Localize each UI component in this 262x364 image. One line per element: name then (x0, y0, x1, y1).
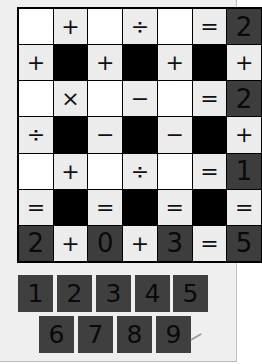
empty-cell[interactable] (88, 154, 122, 189)
operator-cell: = (193, 9, 227, 44)
operator-cell: + (54, 154, 88, 189)
blocked-cell (54, 190, 88, 225)
operator-cell: − (123, 81, 157, 116)
operator-cell: − (88, 117, 122, 152)
operator-cell: = (19, 190, 53, 225)
operator-cell: = (193, 226, 227, 261)
clue-number-cell: 2 (227, 81, 261, 116)
number-tile[interactable]: 2 (57, 275, 92, 312)
empty-cell[interactable] (158, 154, 192, 189)
operator-cell: = (227, 190, 261, 225)
number-tile[interactable]: 4 (135, 275, 170, 312)
operator-cell: = (193, 154, 227, 189)
operator-cell: = (193, 81, 227, 116)
operator-cell: ÷ (19, 117, 53, 152)
number-tile[interactable]: 8 (117, 316, 152, 353)
operator-cell: + (54, 9, 88, 44)
number-tile[interactable]: 1 (18, 275, 53, 312)
empty-cell[interactable] (158, 81, 192, 116)
operator-cell: × (54, 81, 88, 116)
empty-cell[interactable] (158, 9, 192, 44)
clue-number-cell: 2 (19, 226, 53, 261)
operator-cell: + (227, 117, 261, 152)
operator-cell: + (158, 45, 192, 80)
blocked-cell (123, 45, 157, 80)
operator-cell: + (88, 45, 122, 80)
number-tile[interactable]: 5 (173, 275, 208, 312)
operator-cell: ÷ (123, 154, 157, 189)
puzzle-grid: +÷=2++++×−=2÷−−++÷=1====2+0+3=5 (17, 7, 262, 263)
number-tile[interactable]: 7 (78, 316, 113, 353)
operator-cell: − (158, 117, 192, 152)
blocked-cell (54, 117, 88, 152)
empty-cell[interactable] (19, 154, 53, 189)
operator-cell: = (158, 190, 192, 225)
operator-cell: = (88, 190, 122, 225)
number-tile[interactable]: 3 (96, 275, 131, 312)
clue-number-cell: 5 (227, 226, 261, 261)
blocked-cell (123, 117, 157, 152)
number-tile[interactable]: 6 (39, 316, 74, 353)
operator-cell: ÷ (123, 9, 157, 44)
operator-cell: + (54, 226, 88, 261)
clue-number-cell: 1 (227, 154, 261, 189)
blocked-cell (193, 45, 227, 80)
operator-cell: + (123, 226, 157, 261)
operator-cell: + (19, 45, 53, 80)
blocked-cell (123, 190, 157, 225)
operator-cell: + (227, 45, 261, 80)
blocked-cell (193, 117, 227, 152)
empty-cell[interactable] (19, 9, 53, 44)
clue-number-cell: 0 (88, 226, 122, 261)
clue-number-cell: 2 (227, 9, 261, 44)
empty-cell[interactable] (88, 9, 122, 44)
number-tile[interactable]: 9 (156, 316, 191, 353)
blocked-cell (193, 190, 227, 225)
empty-cell[interactable] (88, 81, 122, 116)
blocked-cell (54, 45, 88, 80)
clue-number-cell: 3 (158, 226, 192, 261)
empty-cell[interactable] (19, 81, 53, 116)
